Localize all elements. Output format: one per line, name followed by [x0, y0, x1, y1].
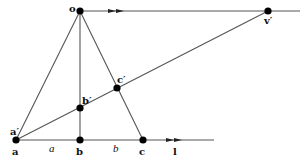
line-a-v-prime: [16, 11, 268, 140]
point-a: [12, 136, 19, 143]
double-arrow-icon-top: [108, 9, 124, 13]
label-o: o: [69, 3, 76, 14]
segment-label-b: b: [113, 142, 119, 154]
line-o-c: [80, 11, 143, 140]
line-o-a: [16, 11, 80, 140]
segment-label-a: a: [49, 142, 55, 154]
label-a: a: [12, 146, 19, 157]
point-o: [76, 7, 83, 14]
point-v-prime: [264, 7, 271, 14]
label-a-prime: a′: [10, 126, 19, 137]
label-b-prime: b′: [82, 95, 92, 106]
double-arrow-icon-bottom: [166, 138, 182, 142]
label-v-prime: v′: [263, 15, 273, 26]
point-b: [76, 136, 83, 143]
point-c-prime: [113, 84, 120, 91]
label-line-l: l: [173, 146, 177, 157]
diagram-canvas: o v′ a a′ b b′ c c′ a b l: [0, 0, 305, 167]
label-c-prime: c′: [117, 74, 126, 85]
label-c: c: [139, 146, 145, 157]
point-c: [139, 136, 146, 143]
label-b: b: [76, 146, 83, 157]
